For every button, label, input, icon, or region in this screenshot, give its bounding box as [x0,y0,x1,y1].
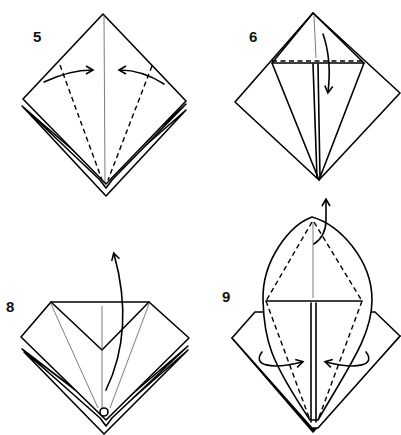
step-5-figure [22,14,186,196]
step-6-figure [235,13,400,180]
step-9-figure [232,200,400,432]
hold-point-circle-icon [100,408,108,416]
origami-diagram [0,0,401,435]
step-8-figure [21,254,189,434]
